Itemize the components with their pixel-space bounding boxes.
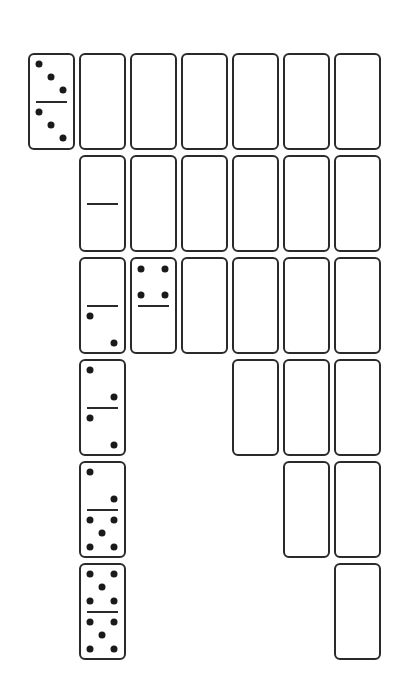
blank-domino-outline: [79, 53, 126, 150]
pip-icon: [99, 584, 106, 591]
pip-icon: [87, 571, 94, 578]
blank-domino-outline: [181, 53, 228, 150]
blank-domino-outline: [130, 53, 177, 150]
blank-domino-outline: [232, 359, 279, 456]
pip-icon: [111, 619, 118, 626]
pip-icon: [87, 619, 94, 626]
pip-icon: [87, 469, 94, 476]
blank-domino-outline: [334, 563, 381, 660]
pip-icon: [87, 517, 94, 524]
domino-half-bottom: [81, 511, 124, 557]
pip-icon: [111, 496, 118, 503]
domino-half-bottom: [132, 307, 175, 353]
domino-4-0: [130, 257, 177, 354]
domino-half-bottom: [81, 307, 124, 353]
pip-icon: [36, 61, 43, 68]
blank-domino-outline: [232, 155, 279, 252]
blank-domino-outline: [334, 359, 381, 456]
blank-domino-outline: [181, 257, 228, 354]
domino-half-top: [81, 463, 124, 509]
pip-icon: [111, 598, 118, 605]
domino-half-bottom: [81, 409, 124, 455]
pip-icon: [111, 442, 118, 449]
pip-icon: [36, 109, 43, 116]
pip-icon: [99, 530, 106, 537]
pip-icon: [162, 292, 169, 299]
domino-half-top: [81, 157, 124, 203]
pip-icon: [111, 646, 118, 653]
domino-half-top: [81, 565, 124, 611]
pip-icon: [60, 135, 67, 142]
blank-domino-outline: [334, 53, 381, 150]
domino-half-top: [30, 55, 73, 101]
blank-domino-outline: [334, 155, 381, 252]
pip-icon: [138, 292, 145, 299]
pip-icon: [60, 87, 67, 94]
pip-icon: [111, 517, 118, 524]
pip-icon: [87, 415, 94, 422]
pip-icon: [87, 544, 94, 551]
domino-0-2: [79, 257, 126, 354]
blank-domino-outline: [181, 155, 228, 252]
domino-half-top: [81, 361, 124, 407]
pip-icon: [48, 74, 55, 81]
domino-2-2: [79, 359, 126, 456]
blank-domino-outline: [283, 155, 330, 252]
pip-icon: [87, 646, 94, 653]
pip-icon: [111, 544, 118, 551]
blank-domino-outline: [130, 155, 177, 252]
pip-icon: [111, 340, 118, 347]
pip-icon: [99, 632, 106, 639]
pip-icon: [111, 571, 118, 578]
domino-0-0: [79, 155, 126, 252]
pip-icon: [87, 598, 94, 605]
pip-icon: [111, 394, 118, 401]
blank-domino-outline: [334, 257, 381, 354]
domino-half-bottom: [81, 205, 124, 251]
pip-icon: [87, 367, 94, 374]
domino-half-bottom: [81, 613, 124, 659]
blank-domino-outline: [334, 461, 381, 558]
pip-icon: [138, 266, 145, 273]
pip-icon: [48, 122, 55, 129]
pip-icon: [162, 266, 169, 273]
blank-domino-outline: [283, 257, 330, 354]
blank-domino-outline: [232, 257, 279, 354]
blank-domino-outline: [232, 53, 279, 150]
domino-2-5: [79, 461, 126, 558]
domino-5-5: [79, 563, 126, 660]
domino-half-bottom: [30, 103, 73, 149]
domino-3-3: [28, 53, 75, 150]
blank-domino-outline: [283, 359, 330, 456]
blank-domino-outline: [283, 53, 330, 150]
blank-domino-outline: [283, 461, 330, 558]
domino-half-top: [81, 259, 124, 305]
pip-icon: [87, 313, 94, 320]
domino-half-top: [132, 259, 175, 305]
